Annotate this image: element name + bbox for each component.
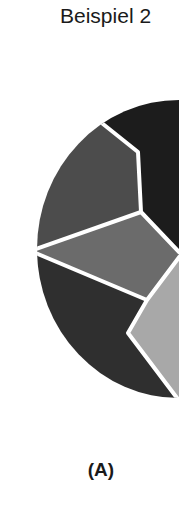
half-circle-diagram [0, 0, 196, 530]
diagram-caption: (A) [0, 459, 196, 481]
